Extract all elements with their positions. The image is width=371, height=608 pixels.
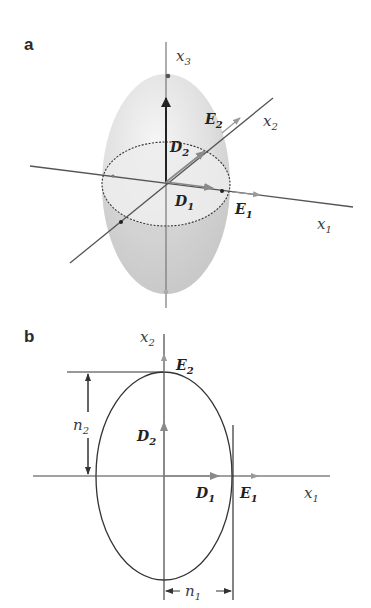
x2-axis-label: x2	[140, 328, 155, 348]
n1-label: n1	[185, 582, 201, 602]
x1-back-point	[111, 174, 114, 177]
x3-top-point	[166, 74, 171, 79]
x3-bottom-point	[164, 290, 169, 295]
x1-axis-label: x1	[317, 215, 332, 235]
E1-label: E1	[239, 485, 258, 504]
x3-axis-label: x3	[176, 47, 191, 67]
panel-b-label: b	[24, 327, 34, 346]
x1-axis-label: x1	[304, 484, 319, 504]
panel-a: a x3 x2 x1 E2 D2 D1 E1	[24, 35, 353, 308]
index-ellipsoid-figure: a x3 x2 x1 E2 D2 D1 E1	[0, 0, 371, 608]
E2-vector-arrow	[222, 118, 240, 133]
E1-vector-arrow	[232, 192, 260, 195]
D1-label: D1	[195, 485, 215, 504]
x1-intersection-point	[220, 189, 224, 193]
panel-a-label: a	[24, 35, 34, 54]
E2-label: E2	[175, 357, 194, 376]
x2-axis-label: x2	[263, 112, 278, 132]
E1-label: E1	[234, 201, 253, 220]
D2-label: D2	[136, 428, 156, 447]
x2-intersection-point	[119, 220, 123, 224]
panel-b: b x2 E2 D2 D1 E1 x1 n2 n1	[24, 327, 330, 602]
